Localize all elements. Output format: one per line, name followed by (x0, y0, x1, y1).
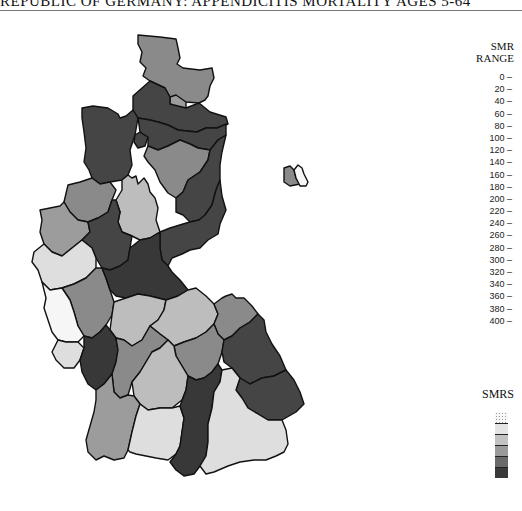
range-item: 280 – (489, 242, 512, 254)
swatch (495, 456, 508, 467)
range-item: 380 – (489, 303, 512, 315)
smrs-heading: SMRS (482, 387, 514, 402)
range-item: 180 – (489, 181, 512, 193)
swatch (495, 467, 508, 478)
smrs-swatch-scale (495, 412, 508, 478)
smr-range-heading: SMR RANGE (476, 40, 514, 64)
range-item: 200 – (489, 193, 512, 205)
range-item: 240 – (489, 217, 512, 229)
smr-range-list: 0 – 20 – 40 – 60 – 80 – 100 – 120 – 140 … (489, 71, 512, 327)
range-item: 100 – (489, 132, 512, 144)
swatch (495, 423, 508, 434)
range-item: 260 – (489, 229, 512, 241)
region-saarland[interactable] (52, 340, 84, 368)
swatch (495, 434, 508, 445)
range-item: 320 – (489, 266, 512, 278)
range-item: 60 – (489, 108, 512, 120)
range-item: 40 – (489, 95, 512, 107)
range-item: 340 – (489, 278, 512, 290)
swatch (495, 412, 508, 423)
region-detmold[interactable] (116, 175, 160, 240)
range-item: 140 – (489, 156, 512, 168)
range-item: 20 – (489, 83, 512, 95)
range-item: 360 – (489, 290, 512, 302)
range-item: 120 – (489, 144, 512, 156)
range-item: 400 – (489, 315, 512, 327)
range-item: 300 – (489, 254, 512, 266)
smr-heading-line2: RANGE (476, 52, 514, 64)
range-item: 160 – (489, 169, 512, 181)
range-item: 80 – (489, 120, 512, 132)
range-item: 220 – (489, 205, 512, 217)
region-weser-ems[interactable] (82, 106, 138, 184)
choropleth-map (0, 0, 522, 511)
swatch (495, 445, 508, 456)
smr-heading-line1: SMR (476, 40, 514, 52)
range-item: 0 – (489, 71, 512, 83)
